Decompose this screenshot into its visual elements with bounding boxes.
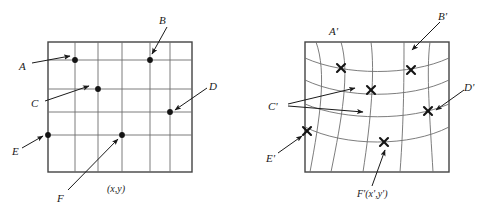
control-point-d-prime: [424, 107, 432, 115]
warped-grid-horizontal-curves: [305, 58, 449, 142]
label-c-prime: C': [268, 101, 278, 112]
leader-arrow-b: [152, 27, 167, 54]
label-b: B: [159, 15, 166, 26]
left-panel-group: [22, 27, 207, 190]
control-point-b-prime: [407, 66, 415, 74]
label-e-prime: E': [266, 153, 275, 164]
source-panel-caption: (x,y): [107, 184, 125, 194]
control-point-a: [72, 57, 78, 63]
control-point-e: [45, 132, 51, 138]
warped-grid-border: [305, 42, 449, 172]
label-c: C: [31, 98, 38, 109]
leader-arrow-e: [22, 136, 43, 148]
leader-arrow-d-prime: [436, 90, 464, 110]
figure-canvas: [0, 0, 496, 219]
label-d-prime: D': [464, 82, 474, 93]
leader-arrow-c: [45, 86, 89, 101]
right-panel-group: [278, 22, 464, 186]
label-f: F: [57, 193, 64, 204]
control-point-c-prime: [367, 86, 375, 94]
source-leader-arrows: [22, 27, 207, 190]
warped-panel-caption: F'(x',y'): [357, 189, 388, 199]
leader-arrow-b-prime: [412, 22, 440, 50]
control-point-c: [95, 86, 101, 92]
leader-arrow-d: [175, 88, 207, 110]
label-a: A: [19, 61, 26, 72]
control-point-d: [167, 109, 173, 115]
leader-arrow-f-prime: [372, 150, 385, 186]
control-point-b: [147, 57, 153, 63]
warped-grid-vertical-curves: [310, 42, 433, 172]
label-b-prime: B': [438, 11, 447, 22]
label-d: D: [209, 81, 217, 92]
figure-root: A B C D E F (x,y) A' B' C' D' E' F'(x',y…: [0, 0, 496, 219]
control-point-f: [119, 132, 125, 138]
source-grid-vertical-lines: [75, 42, 170, 172]
leader-arrow-a: [32, 56, 70, 63]
source-control-points: [45, 57, 173, 138]
leader-arrow-e-prime: [278, 136, 302, 153]
label-e: E: [12, 146, 19, 157]
label-a-prime: A': [329, 26, 338, 37]
